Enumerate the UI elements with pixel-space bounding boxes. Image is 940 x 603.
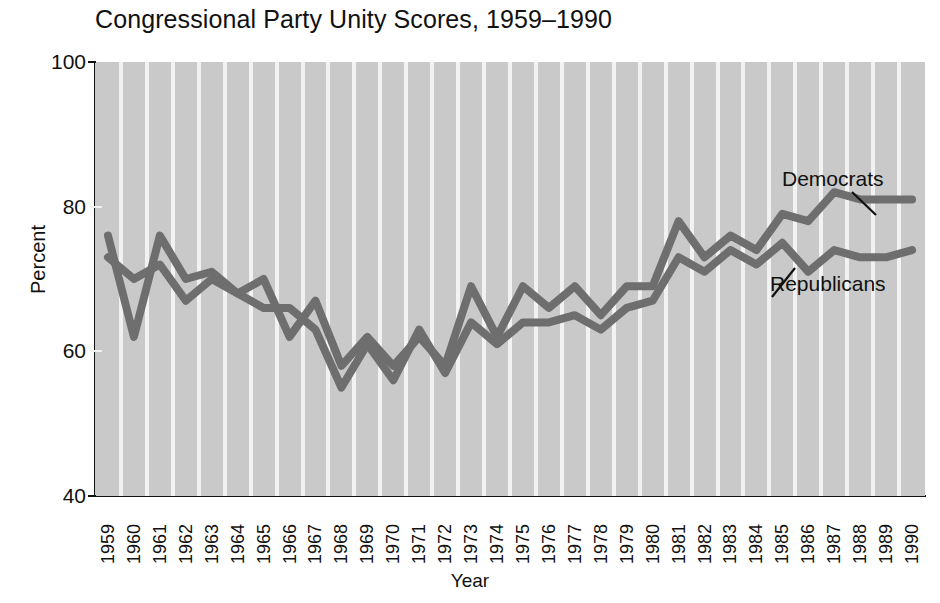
annotation-republicans: Republicans bbox=[770, 272, 886, 296]
leader-line-democrats bbox=[852, 192, 876, 215]
annotation-leader-lines bbox=[0, 0, 940, 603]
chart-figure: Congressional Party Unity Scores, 1959–1… bbox=[0, 0, 940, 603]
annotation-democrats: Democrats bbox=[782, 167, 884, 191]
